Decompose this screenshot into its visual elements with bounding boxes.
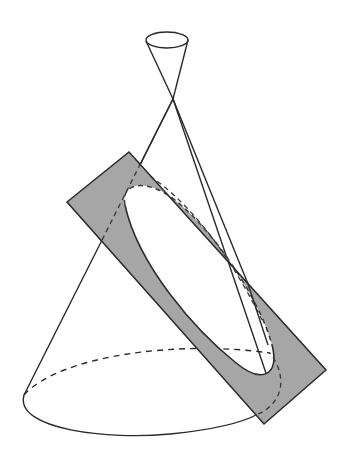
upper-cone-right-edge: [173, 40, 188, 99]
visible-left-edge-top: [140, 99, 173, 165]
plane-surface: [67, 152, 326, 424]
upper-cone-rim: [146, 32, 188, 48]
base-ellipse-visible: [23, 395, 258, 436]
lower-cone-right-edge: [173, 99, 270, 385]
cone-section-diagram: [0, 0, 352, 463]
upper-cone-left-edge: [146, 41, 173, 99]
visible-right-edge-top: [173, 99, 248, 284]
upper-cone: [146, 32, 188, 99]
plane: [24, 99, 326, 424]
